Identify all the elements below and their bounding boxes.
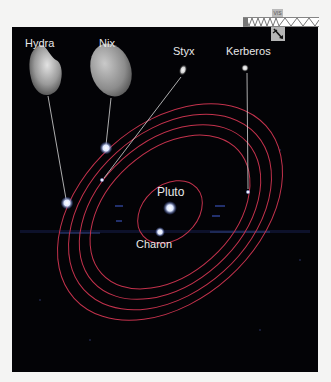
pluto-label: Pluto — [157, 186, 184, 198]
kerberos-label: Kerberos — [226, 45, 271, 57]
kerberos-image — [241, 64, 249, 72]
styx-dot — [100, 178, 105, 183]
hydra-dot — [61, 197, 74, 210]
pointer-lines — [48, 73, 248, 199]
nix-label: Nix — [99, 37, 115, 49]
zigzag-ribbon — [243, 17, 319, 27]
pluto-system-diagram: Hydra Nix Styx Kerberos Pluto Charon — [12, 27, 318, 372]
nix-pointer — [106, 98, 111, 145]
hydra-image — [29, 45, 61, 95]
charon-dot — [155, 227, 165, 237]
styx-label: Styx — [173, 45, 194, 57]
hydra-label: Hydra — [25, 37, 54, 49]
kerberos-dot — [246, 190, 251, 195]
nix-dot — [100, 142, 113, 155]
orbit-diagram — [12, 27, 318, 372]
vis-badge: VIS — [272, 9, 283, 17]
hydra-pointer — [48, 96, 66, 199]
pluto-dot — [163, 201, 177, 215]
styx-image — [177, 63, 189, 77]
charon-label: Charon — [136, 238, 172, 250]
space-probe-icon — [271, 27, 285, 41]
kerberos-pointer — [247, 73, 248, 189]
